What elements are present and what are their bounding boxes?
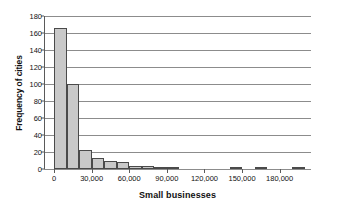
y-tick-label-60: 60 [34,114,42,123]
x-tick-mark [204,169,205,173]
histogram-bar [167,167,180,169]
histogram-figure: Frequency of cities 18016014012010080604… [0,0,341,211]
histogram-bar [292,167,305,169]
y-tick-label-180: 180 [29,12,42,21]
x-tick-label-30000: 30,000 [80,174,103,183]
y-tick-label-80: 80 [34,97,42,106]
x-tick-mark [167,169,168,173]
plot-area: 180160140120100806040200030,00060,00090,… [44,16,311,169]
x-axis-title: Small businesses [44,190,311,200]
histogram-bar [230,167,243,169]
y-tick-label-40: 40 [34,131,42,140]
histogram-bar [154,167,167,169]
x-tick-mark [242,169,243,173]
histogram-bar [79,150,92,169]
gridline-y-0 [44,169,311,170]
x-tick-label-90000: 90,000 [155,174,178,183]
histogram-bar [67,84,80,169]
histogram-bar [142,166,155,169]
x-tick-mark [54,169,55,173]
y-tick-label-140: 140 [29,46,42,55]
histogram-bar [54,28,67,169]
y-tick-label-160: 160 [29,29,42,38]
x-tick-label-150000: 150,000 [228,174,255,183]
histogram-bar [255,167,268,169]
x-tick-mark [92,169,93,173]
y-axis-title: Frequency of cities [14,38,24,148]
y-tick-label-100: 100 [29,80,42,89]
x-tick-label-180000: 180,000 [266,174,293,183]
x-tick-label-60000: 60,000 [118,174,141,183]
x-tick-label-120000: 120,000 [191,174,218,183]
histogram-bar [117,162,130,169]
histogram-bar [92,158,105,169]
histogram-bar [129,166,142,169]
x-tick-mark [280,169,281,173]
histogram-bar [104,161,117,170]
y-tick-label-120: 120 [29,63,42,72]
y-tick-label-0: 0 [38,165,42,174]
y-tick-label-20: 20 [34,148,42,157]
bar-series [44,16,311,169]
x-tick-label-0: 0 [52,174,56,183]
x-tick-mark [129,169,130,173]
